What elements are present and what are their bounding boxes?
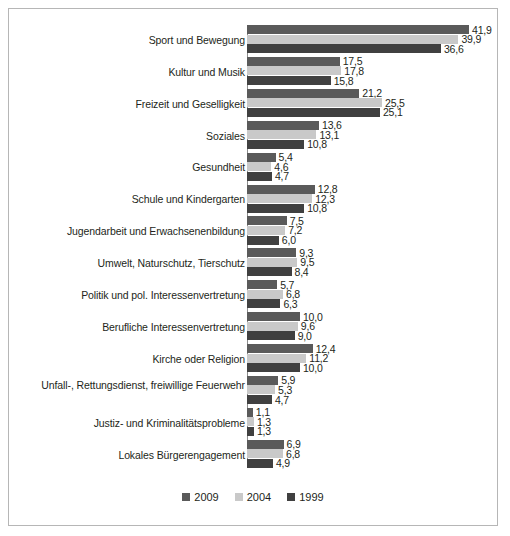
bar-2004: 9,5 xyxy=(247,258,493,267)
bar-value-label: 21,2 xyxy=(359,87,382,99)
bar-rect xyxy=(247,35,458,44)
bar-row: Umwelt, Naturschutz, Tierschutz9,39,58,4 xyxy=(9,248,497,280)
category-label: Politik und pol. Interessenvertretung xyxy=(21,289,245,302)
bar-2009: 13,6 xyxy=(247,121,493,130)
bar-value-label: 8,4 xyxy=(292,266,309,278)
bar-row: Schule und Kindergarten12,812,310,8 xyxy=(9,185,497,217)
bar-2009: 7,5 xyxy=(247,216,493,225)
bar-rect xyxy=(247,121,319,130)
bar-rect xyxy=(247,417,254,426)
bar-rect xyxy=(247,25,469,34)
bar-value-label: 10,0 xyxy=(300,361,323,373)
bar-1999: 6,0 xyxy=(247,236,493,245)
legend-item-label: 1999 xyxy=(299,491,323,503)
bar-value-label: 6,0 xyxy=(279,234,296,246)
category-label: Jugendarbeit und Erwachsenenbildung xyxy=(21,225,245,238)
bar-rect xyxy=(247,440,284,449)
bar-rect xyxy=(247,267,292,276)
bar-rect xyxy=(247,459,273,468)
bar-row: Kirche oder Religion12,411,210,0 xyxy=(9,344,497,376)
bar-2004: 11,2 xyxy=(247,354,493,363)
legend-item-2009[interactable]: 2009 xyxy=(182,491,218,503)
bar-2009: 17,5 xyxy=(247,57,493,66)
bar-2009: 21,2 xyxy=(247,89,493,98)
bar-2004: 1,3 xyxy=(247,417,493,426)
bar-1999: 25,1 xyxy=(247,108,493,117)
bar-group: 5,44,64,7 xyxy=(247,153,497,185)
category-label: Berufliche Interessenvertretung xyxy=(21,321,245,334)
legend-swatch-icon xyxy=(182,493,190,501)
bar-2004: 17,8 xyxy=(247,66,493,75)
bar-1999: 8,4 xyxy=(247,267,493,276)
bar-row: Sport und Bewegung41,939,936,6 xyxy=(9,25,497,57)
legend-swatch-icon xyxy=(235,493,243,501)
category-label: Schule und Kindergarten xyxy=(21,193,245,206)
legend-item-1999[interactable]: 1999 xyxy=(287,491,323,503)
bar-rect xyxy=(247,236,279,245)
bar-value-label: 10,8 xyxy=(304,202,327,214)
bar-value-label: 36,6 xyxy=(441,42,464,54)
bar-2004: 12,3 xyxy=(247,194,493,203)
bar-rect xyxy=(247,108,380,117)
bar-group: 17,517,815,8 xyxy=(247,57,497,89)
bar-value-label: 6,3 xyxy=(280,298,297,310)
bar-rect xyxy=(247,185,315,194)
bar-rect xyxy=(247,385,275,394)
bar-rect xyxy=(247,248,296,257)
bar-rect xyxy=(247,344,313,353)
bar-rect xyxy=(247,395,272,404)
bar-1999: 6,3 xyxy=(247,299,493,308)
bar-2009: 9,3 xyxy=(247,248,493,257)
bar-rect xyxy=(247,204,304,213)
bar-group: 5,76,86,3 xyxy=(247,280,497,312)
bar-row: Jugendarbeit und Erwachsenenbildung7,57,… xyxy=(9,216,497,248)
bar-rect xyxy=(247,322,298,331)
bar-2009: 41,9 xyxy=(247,25,493,34)
bar-1999: 9,0 xyxy=(247,331,493,340)
category-label: Unfall-, Rettungsdienst, freiwillige Feu… xyxy=(21,379,245,392)
bar-1999: 4,9 xyxy=(247,459,493,468)
legend-item-label: 2004 xyxy=(247,491,271,503)
bar-2004: 13,1 xyxy=(247,130,493,139)
chart-frame: Sport und Bewegung41,939,936,6Kultur und… xyxy=(8,8,498,526)
legend-item-label: 2009 xyxy=(194,491,218,503)
bar-rect xyxy=(247,280,277,289)
category-label: Sport und Bewegung xyxy=(21,34,245,47)
bar-rect xyxy=(247,98,382,107)
bar-value-label: 1,3 xyxy=(254,425,271,437)
legend-item-2004[interactable]: 2004 xyxy=(235,491,271,503)
bar-row: Politik und pol. Interessenvertretung5,7… xyxy=(9,280,497,312)
bar-2004: 25,5 xyxy=(247,98,493,107)
bar-1999: 1,3 xyxy=(247,427,493,436)
bar-row: Freizeit und Geselligkeit21,225,525,1 xyxy=(9,89,497,121)
bar-rect xyxy=(247,363,300,372)
bar-1999: 10,8 xyxy=(247,140,493,149)
bar-1999: 36,6 xyxy=(247,44,493,53)
bar-rect xyxy=(247,299,280,308)
category-label: Lokales Bürgerengagement xyxy=(21,449,245,462)
bar-1999: 10,8 xyxy=(247,204,493,213)
bar-row: Gesundheit5,44,64,7 xyxy=(9,153,497,185)
bar-rect xyxy=(247,258,297,267)
category-label: Kirche oder Religion xyxy=(21,353,245,366)
bar-rect xyxy=(247,427,254,436)
bar-1999: 15,8 xyxy=(247,76,493,85)
bar-value-label: 4,9 xyxy=(273,457,290,469)
bar-group: 12,812,310,8 xyxy=(247,185,497,217)
bar-rect xyxy=(247,89,359,98)
bar-rect xyxy=(247,162,271,171)
category-label: Gesundheit xyxy=(21,161,245,174)
bar-rect xyxy=(247,290,283,299)
bar-2009: 1,1 xyxy=(247,408,493,417)
category-label: Freizeit und Geselligkeit xyxy=(21,98,245,111)
bar-2009: 10,0 xyxy=(247,312,493,321)
bar-group: 5,95,34,7 xyxy=(247,376,497,408)
bar-rect xyxy=(247,354,306,363)
bar-rect xyxy=(247,376,278,385)
bar-1999: 4,7 xyxy=(247,172,493,181)
bar-group: 6,96,84,9 xyxy=(247,440,497,472)
bar-value-label: 10,8 xyxy=(304,138,327,150)
bar-rect xyxy=(247,57,340,66)
bar-row: Kultur und Musik17,517,815,8 xyxy=(9,57,497,89)
bar-group: 21,225,525,1 xyxy=(247,89,497,121)
